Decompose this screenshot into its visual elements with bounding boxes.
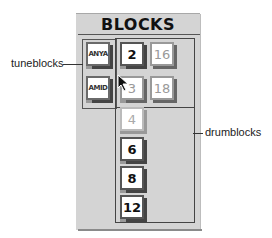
block-tag: [120, 66, 126, 69]
mouse-pointer-icon: [117, 74, 131, 92]
tuneblock-anya[interactable]: ANYA: [86, 42, 110, 66]
block-tag: [86, 100, 92, 103]
drumblock-18[interactable]: 18: [150, 76, 174, 100]
drumblock-6[interactable]: 6: [120, 137, 144, 161]
block-tag: [120, 131, 126, 134]
block-tag: [86, 66, 92, 69]
drumblock-8[interactable]: 8: [120, 166, 144, 190]
tuneblocks-leader-line: [63, 64, 83, 65]
tuneblocks-callout: tuneblocks: [11, 57, 64, 69]
drumblock-2[interactable]: 2: [120, 42, 144, 66]
panel-bottom-edge: [78, 229, 202, 231]
title-divider: [78, 34, 200, 35]
block-tag: [120, 190, 126, 193]
panel-title: BLOCKS: [76, 15, 200, 35]
tuneblock-amid[interactable]: AMID: [86, 76, 110, 100]
drumblock-16[interactable]: 16: [150, 42, 174, 66]
block-tag: [120, 161, 126, 164]
drumblocks-leader-line: [193, 133, 203, 134]
drumblock-12[interactable]: 12: [120, 195, 144, 219]
block-tag: [120, 100, 126, 103]
drumblocks-callout: drumblocks: [205, 126, 261, 138]
block-tag: [120, 219, 126, 222]
drumblock-4[interactable]: 4: [120, 107, 144, 131]
